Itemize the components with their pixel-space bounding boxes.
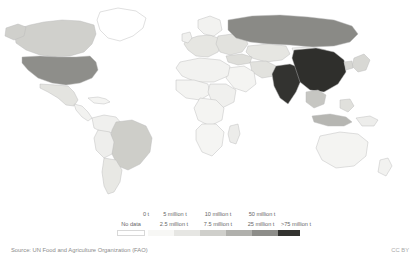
map-countries	[5, 8, 392, 194]
country-scandinavia	[198, 16, 222, 36]
legend-label-no-data: No data	[121, 219, 141, 229]
country-turkey	[226, 54, 252, 65]
country-caribbean	[88, 97, 110, 104]
country-china	[292, 48, 346, 92]
country-southeast-asia	[306, 90, 326, 108]
country-new-zealand	[378, 158, 392, 176]
country-russia	[228, 15, 358, 47]
country-southern-africa	[196, 124, 224, 156]
country-indonesia	[312, 114, 352, 126]
world-map	[0, 0, 419, 200]
legend-label-75m: >75 million t	[281, 219, 311, 229]
country-kazakhstan	[246, 44, 290, 62]
license-label[interactable]: CC BY	[391, 243, 409, 257]
chart-footer: Source: UN Food and Agriculture Organiza…	[0, 243, 419, 257]
country-papua-new-guinea	[356, 116, 378, 126]
country-canada	[14, 20, 96, 57]
legend-tick-10: 10 million t	[205, 210, 232, 219]
country-madagascar	[228, 124, 240, 144]
legend-label-25m: 25 million t	[248, 219, 275, 229]
legend-tick-5: 5 million t	[163, 210, 187, 219]
country-mexico	[40, 84, 78, 106]
legend-swatch-no-data	[117, 230, 145, 236]
legend-label-2-5m: 2.5 million t	[160, 219, 188, 229]
legend-swatch-10m	[252, 230, 278, 236]
legend-bin-label-row: No data 2.5 million t 7.5 million t 25 m…	[0, 219, 419, 229]
legend-color-bar	[0, 230, 419, 236]
legend-swatch-7-5m	[226, 230, 252, 236]
country-japan	[352, 54, 370, 72]
map-legend: 0 t 5 million t 10 million t 50 million …	[0, 210, 419, 244]
legend-tick-row: 0 t 5 million t 10 million t 50 million …	[0, 210, 419, 219]
country-greenland	[97, 8, 146, 41]
legend-swatch-0t	[148, 230, 174, 236]
map-svg	[0, 0, 419, 200]
legend-tick-0: 0 t	[143, 210, 149, 219]
country-united-states	[22, 56, 98, 85]
country-central-america	[74, 104, 92, 121]
legend-swatch-75m	[278, 230, 300, 236]
country-west-africa	[176, 80, 210, 100]
source-attribution: Source: UN Food and Agriculture Organiza…	[11, 243, 148, 257]
legend-swatch-2-5m	[174, 230, 200, 236]
country-philippines	[340, 99, 354, 112]
country-north-africa	[176, 58, 230, 82]
legend-tick-50: 50 million t	[249, 210, 276, 219]
legend-swatch-5m	[200, 230, 226, 236]
country-peru-bolivia	[94, 130, 114, 158]
country-australia	[316, 132, 368, 168]
legend-label-7-5m: 7.5 million t	[204, 219, 232, 229]
